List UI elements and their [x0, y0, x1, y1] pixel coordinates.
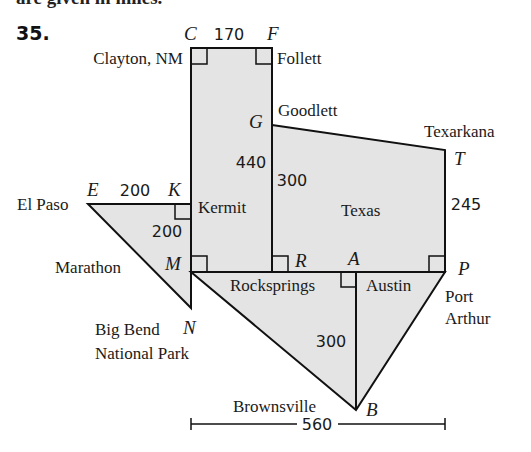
label-texas: Texas	[341, 201, 380, 220]
label-national-park: National Park	[95, 344, 189, 363]
point-T: T	[454, 148, 466, 169]
label-rocksprings: Rocksprings	[230, 276, 315, 295]
diagram-svg: are given in miles. 35. 560 C F G T E K …	[0, 0, 531, 452]
problem-number: 35.	[16, 22, 50, 44]
label-big-bend: Big Bend	[95, 320, 160, 339]
point-P: P	[457, 258, 470, 279]
point-A: A	[346, 248, 360, 269]
label-follett: Follett	[277, 49, 322, 68]
label-kermit: Kermit	[198, 198, 246, 217]
point-N: N	[182, 317, 197, 338]
point-K: K	[167, 179, 182, 200]
label-clayton: Clayton, NM	[93, 49, 183, 68]
distance-GR: 300	[277, 171, 308, 190]
label-marathon: Marathon	[55, 258, 122, 277]
dimension-560: 560	[302, 415, 333, 434]
point-E: E	[86, 179, 99, 200]
point-R: R	[294, 250, 307, 271]
label-austin: Austin	[366, 276, 412, 295]
label-arthur: Arthur	[445, 309, 491, 328]
distance-EK: 200	[120, 181, 151, 200]
texas-geometry-diagram: are given in miles. 35. 560 C F G T E K …	[0, 0, 531, 452]
distance-CM: 440	[236, 153, 267, 172]
point-C: C	[184, 23, 197, 44]
point-M: M	[164, 253, 182, 274]
label-texarkana: Texarkana	[424, 122, 495, 141]
distance-AB: 300	[316, 332, 347, 351]
point-G: G	[249, 111, 263, 132]
distance-TP: 245	[451, 195, 482, 214]
clipped-header-text: are given in miles.	[16, 0, 162, 8]
label-el-paso: El Paso	[17, 195, 68, 214]
point-F: F	[266, 23, 279, 44]
label-goodlett: Goodlett	[278, 101, 338, 120]
distance-KM: 200	[152, 222, 183, 241]
label-port: Port	[445, 287, 474, 306]
point-B: B	[366, 399, 378, 420]
label-brownsville: Brownsville	[233, 397, 316, 416]
distance-CF: 170	[214, 25, 245, 44]
